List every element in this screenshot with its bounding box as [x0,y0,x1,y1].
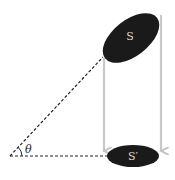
label-s: S [126,30,134,43]
projection-diagram: S S′ θ [0,0,175,180]
label-theta: θ [25,143,32,156]
label-s-prime: S′ [128,150,139,163]
diagram-svg: S S′ θ [0,0,175,180]
angle-arc [18,147,22,156]
dashed-incline-line [10,57,103,156]
